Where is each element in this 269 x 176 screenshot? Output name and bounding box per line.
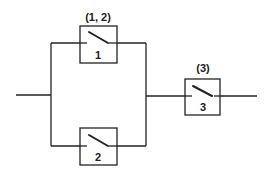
group-label-3: (3) — [196, 62, 210, 74]
block-1-label: 1 — [95, 49, 101, 61]
block-1: 1 (1, 2) — [80, 11, 117, 63]
block-3-label: 3 — [200, 101, 206, 113]
group-label-1-2: (1, 2) — [85, 11, 111, 23]
block-3: 3 (3) — [185, 62, 220, 115]
block-2-label: 2 — [95, 151, 101, 163]
block-2: 2 — [80, 128, 117, 165]
reliability-diagram: 1 (1, 2) 2 3 (3) — [0, 0, 269, 176]
